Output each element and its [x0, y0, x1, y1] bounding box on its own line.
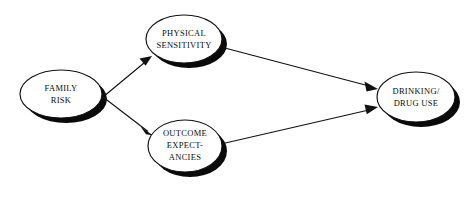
node-drinking-drug-use[interactable]: DRINKING/ DRUG USE: [377, 72, 455, 122]
physical-sensitivity-label: SENSITIVITY: [156, 40, 211, 50]
path-diagram: FAMILY RISK PHYSICAL SENSITIVITY OUTCOME…: [0, 0, 469, 198]
family-risk-label: RISK: [51, 95, 72, 105]
node-family-risk[interactable]: FAMILY RISK: [20, 70, 102, 118]
drinking-drug-use-label: DRUG USE: [394, 98, 439, 108]
edge-family-risk-to-physical-sensitivity[interactable]: [103, 56, 152, 97]
edge-family-risk-to-outcome-expectancies[interactable]: [103, 97, 153, 136]
drinking-drug-use-label: DRINKING/: [392, 86, 439, 96]
arrowhead-icon: [140, 56, 153, 66]
edge-line: [221, 47, 371, 87]
edge-line: [103, 97, 148, 132]
family-risk-label: FAMILY: [45, 83, 78, 93]
edge-layer: [103, 47, 378, 144]
node-outcome-expectancies[interactable]: OUTCOME EXPECT- ANCIES: [148, 120, 222, 172]
edge-outcome-expectancies-to-drinking-drug-use[interactable]: [221, 105, 378, 145]
edge-physical-sensitivity-to-drinking-drug-use[interactable]: [221, 47, 378, 92]
node-physical-sensitivity[interactable]: PHYSICAL SENSITIVITY: [146, 15, 222, 63]
diagram-canvas: FAMILY RISK PHYSICAL SENSITIVITY OUTCOME…: [0, 0, 469, 198]
node-layer: FAMILY RISK PHYSICAL SENSITIVITY OUTCOME…: [20, 15, 455, 172]
edge-line: [221, 110, 371, 145]
outcome-expectancies-label: ANCIES: [169, 152, 202, 162]
physical-sensitivity-label: PHYSICAL: [162, 28, 206, 38]
arrowhead-icon: [365, 82, 379, 92]
outcome-expectancies-label: EXPECT-: [167, 140, 203, 150]
outcome-expectancies-label: OUTCOME: [163, 128, 207, 138]
arrowhead-icon: [365, 105, 379, 115]
edge-line: [103, 61, 147, 98]
